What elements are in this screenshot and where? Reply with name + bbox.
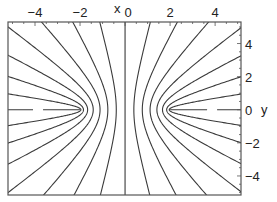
x-tick-label: −2: [73, 5, 88, 20]
contour-line: [0, 0, 93, 202]
y-axis-ticks: −4−2024: [237, 27, 260, 193]
x-axis-ticks: −4−2024: [13, 5, 238, 26]
y-tick-label: 4: [245, 37, 252, 52]
x-tick-label: 4: [211, 5, 218, 20]
y-tick-label: 2: [245, 70, 252, 85]
x-tick-label: 0: [124, 5, 131, 20]
contour-plot: −4−2024 −4−2024 x y: [0, 0, 277, 202]
y-tick-label: 0: [245, 103, 252, 118]
x-tick-label: −4: [28, 5, 43, 20]
y-tick-label: −4: [245, 169, 260, 184]
x-axis-label: x: [114, 1, 121, 16]
x-tick-label: 2: [166, 5, 173, 20]
y-tick-label: −2: [245, 136, 260, 151]
plot-frame: [8, 22, 241, 195]
y-axis-label: y: [261, 102, 268, 117]
contour-line: [167, 0, 277, 202]
contour-lines: [0, 0, 277, 202]
